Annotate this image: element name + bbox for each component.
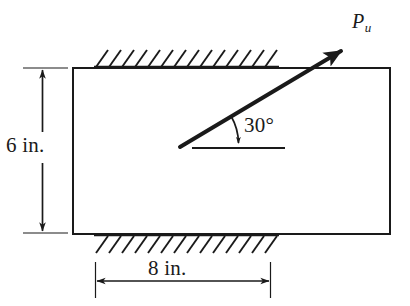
- applied-load-symbol: P: [352, 10, 364, 32]
- height-dimension-label: 6 in.: [6, 133, 44, 158]
- bottom-support-hatching: [96, 236, 277, 253]
- engineering-figure: [0, 0, 410, 306]
- top-support-hatching: [96, 50, 277, 67]
- angle-label: 30°: [244, 113, 274, 138]
- applied-load-label: Pu: [352, 10, 371, 36]
- rectangular-plate: [73, 68, 390, 234]
- applied-load-subscript: u: [365, 20, 372, 35]
- width-dimension-label: 8 in.: [148, 256, 186, 281]
